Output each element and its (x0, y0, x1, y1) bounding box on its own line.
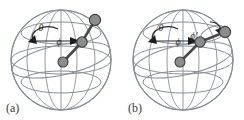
bead-end (219, 26, 230, 37)
bead-origin (175, 57, 185, 67)
bead-origin (58, 57, 68, 67)
figure-root: θ ϕ (a) (0, 0, 244, 120)
phi-prime-label: ϕ′ (190, 30, 198, 41)
caption-a: (a) (6, 101, 19, 116)
phi-label: ϕ (56, 36, 61, 47)
caption-b: (b) (128, 101, 142, 116)
theta-label: θ (159, 22, 164, 33)
bead-end (89, 14, 100, 25)
phi-label: ϕ (175, 36, 180, 47)
theta-arc (32, 27, 58, 40)
panel-a: θ ϕ (a) (0, 0, 122, 120)
theta-label: θ (39, 22, 44, 33)
bead-middle (77, 37, 87, 47)
panel-b: θ ϕ ϕ′ (b) (122, 0, 244, 120)
